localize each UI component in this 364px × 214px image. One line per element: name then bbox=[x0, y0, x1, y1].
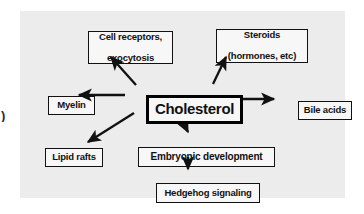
node-hedgehog-signaling-label: Hedgehog signaling bbox=[157, 188, 259, 199]
node-myelin-label: Myelin bbox=[49, 100, 94, 111]
figure-canvas: ) bbox=[0, 0, 364, 214]
node-cell-receptors[interactable]: Cell receptors, exocytosis bbox=[88, 31, 173, 64]
node-hedgehog-signaling[interactable]: Hedgehog signaling bbox=[156, 183, 260, 203]
node-embryonic-development-label: Embryonic development bbox=[139, 151, 274, 162]
diagram-panel: Cell receptors, exocytosis Steroids (hor… bbox=[20, 11, 345, 198]
node-bile-acids[interactable]: Bile acids bbox=[298, 101, 352, 120]
node-bile-acids-label: Bile acids bbox=[299, 105, 351, 116]
node-steroids[interactable]: Steroids (hormones, etc) bbox=[216, 29, 308, 63]
edge-to-lipid-rafts bbox=[88, 113, 134, 142]
node-cholesterol[interactable]: Cholesterol bbox=[146, 95, 243, 124]
node-embryonic-development[interactable]: Embryonic development bbox=[138, 147, 275, 167]
node-steroids-line1: Steroids bbox=[217, 30, 307, 41]
node-lipid-rafts-label: Lipid rafts bbox=[46, 152, 102, 163]
node-steroids-line2: (hormones, etc) bbox=[217, 51, 307, 62]
node-myelin[interactable]: Myelin bbox=[48, 96, 95, 115]
node-lipid-rafts[interactable]: Lipid rafts bbox=[45, 148, 103, 167]
node-cholesterol-label: Cholesterol bbox=[149, 101, 240, 118]
node-cell-receptors-line1: Cell receptors, bbox=[89, 32, 172, 43]
cropped-edge-glyph: ) bbox=[1, 110, 8, 122]
node-cell-receptors-line2: exocytosis bbox=[89, 53, 172, 64]
